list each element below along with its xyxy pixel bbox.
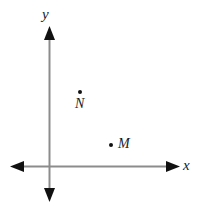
x-axis-label: x xyxy=(183,158,190,173)
axes-graphic xyxy=(0,0,201,211)
y-axis-label: y xyxy=(42,7,49,22)
point-label-m: M xyxy=(118,137,130,151)
y-axis-top-arrowhead xyxy=(44,26,55,40)
x-axis-right-arrowhead xyxy=(166,161,180,172)
point-label-n: N xyxy=(75,97,84,111)
y-axis-bottom-arrowhead xyxy=(44,188,55,202)
point-marker-m xyxy=(109,143,113,147)
x-axis-left-arrowhead xyxy=(10,161,24,172)
point-marker-n xyxy=(78,90,82,94)
coordinate-plane-figure: y x N M xyxy=(0,0,201,211)
